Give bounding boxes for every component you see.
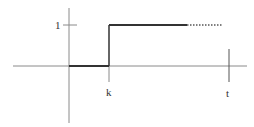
x-label-k: k — [106, 86, 112, 98]
step-function-diagram: 1 k t — [0, 0, 254, 127]
x-label-t: t — [226, 87, 229, 99]
y-tick-label: 1 — [55, 19, 61, 31]
